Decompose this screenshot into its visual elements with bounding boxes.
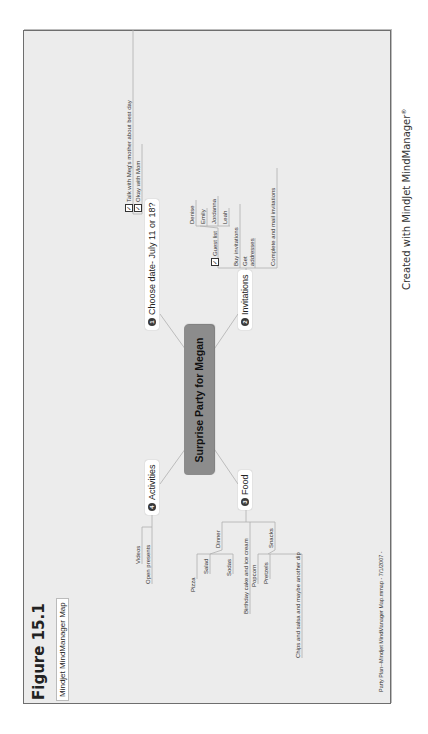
subtopic-buy-invitations[interactable]: Buy invitations (233, 227, 239, 266)
credit-text: Created with MindJet MindManager® (400, 109, 412, 290)
subtopic-label: Guest list (212, 231, 218, 256)
topic-choose-date[interactable]: 1 Choose date- July 11 or 18? (145, 199, 159, 330)
subtopic-complete-mail[interactable]: Complete and mail invitations (270, 188, 276, 266)
topic-invitations[interactable]: 2 Invitations (238, 270, 252, 330)
topic-food[interactable]: 3 Food (238, 470, 252, 510)
file-footer: Party Plan--Mindjet MindManager Map.mmap… (378, 551, 384, 692)
subtopic-birthday-cake[interactable]: Birthday cake and ice cream (243, 538, 249, 614)
food-sodas[interactable]: Sodas (226, 559, 232, 576)
subtopic-label-line2: addresses (249, 238, 256, 266)
central-topic[interactable]: Surprise Party for Megan (184, 325, 214, 475)
topic-label: Choose date- July 11 or 18? (147, 203, 157, 315)
registered-mark: ® (400, 109, 407, 115)
activity-videos[interactable]: Videos (135, 546, 141, 564)
checkbox-checked-icon[interactable]: ✓ (134, 204, 142, 212)
subtopic-label: Okay with Mom (135, 161, 141, 202)
subtopic-get-addresses[interactable]: Get addresses (242, 238, 256, 266)
subtopic-label-line1: Get (242, 238, 249, 266)
guest-emily[interactable]: Emily (200, 209, 206, 224)
subtopic-okay-with-mom[interactable]: ✓Okay with Mom (134, 161, 142, 212)
guest-leah[interactable]: Leah (222, 211, 228, 224)
food-salad[interactable]: Salad (203, 559, 209, 574)
guest-denise[interactable]: Denise (189, 205, 195, 224)
food-pizza[interactable]: Pizza (190, 577, 196, 592)
subtopic-label: Talk with Meg's mother about best day (126, 100, 132, 202)
subtopic-snacks[interactable]: Snacks (268, 528, 274, 548)
checkbox-checked-icon[interactable]: ✓ (125, 204, 133, 212)
topic-label: Food (240, 474, 250, 495)
topic-activities[interactable]: 4 Activities (145, 460, 159, 515)
snack-pretzels[interactable]: Pretzels (263, 562, 269, 584)
subtopic-guest-list[interactable]: ✓Guest list (211, 231, 219, 266)
priority-4-icon: 4 (148, 503, 156, 511)
activity-open-presents[interactable]: Open presents (145, 545, 151, 584)
priority-1-icon: 1 (148, 318, 156, 326)
figure-title: Figure 15.1 (30, 603, 48, 700)
topic-label: Invitations (240, 274, 250, 315)
priority-3-icon: 3 (241, 498, 249, 506)
priority-2-icon: 2 (241, 318, 249, 326)
credit-label: Created with MindJet MindManager (401, 115, 412, 290)
subtopic-dinner[interactable]: Dinner (215, 530, 221, 548)
subtopic-talk-with-mother[interactable]: ✓Talk with Meg's mother about best day (125, 100, 133, 212)
checkbox-checked-icon[interactable]: ✓ (211, 258, 219, 266)
map-label: Mindjet MindManager Map (56, 598, 69, 701)
rotated-canvas: Figure 15.1 Mindjet MindManager Map Surp… (0, 0, 428, 734)
topic-label: Activities (147, 464, 157, 500)
snack-popcorn[interactable]: Popcorn (251, 565, 257, 587)
snack-chips-salsa[interactable]: Chips and salsa and maybe another dip (295, 552, 301, 658)
guest-jordanna[interactable]: Jordanna (211, 199, 217, 224)
central-topic-label: Surprise Party for Megan (193, 338, 205, 463)
